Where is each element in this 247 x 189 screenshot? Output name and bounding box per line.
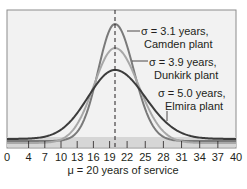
camden-plant-label: Camden plant [144, 38, 213, 50]
x-tick-label: 22 [121, 151, 133, 163]
elmira-sigma-label: σ = 5.0 years, [158, 87, 226, 99]
x-axis-label: μ = 20 years of service [67, 164, 178, 176]
x-tick-label: 19 [103, 151, 115, 163]
x-tick-label: 13 [71, 151, 83, 163]
normal-distribution-chart: 0471013161922252831343740 μ = 20 years o… [0, 0, 247, 189]
x-tick-label: 10 [55, 151, 67, 163]
x-tick-label: 25 [139, 151, 151, 163]
x-axis-tick-labels: 0471013161922252831343740 [4, 151, 242, 163]
elmira-plant-label: Elmira plant [165, 100, 223, 112]
x-tick-label: 7 [42, 151, 48, 163]
x-tick-label: 28 [157, 151, 169, 163]
dunkirk-sigma-label: σ = 3.9 years, [149, 56, 217, 68]
x-tick-label: 16 [87, 151, 99, 163]
dunkirk-plant-label: Dunkirk plant [154, 69, 218, 81]
x-tick-label: 34 [194, 151, 206, 163]
camden-sigma-label: σ = 3.1 years, [141, 25, 209, 37]
x-tick-label: 37 [212, 151, 224, 163]
x-tick-label: 40 [230, 151, 242, 163]
x-tick-label: 0 [4, 151, 10, 163]
x-tick-label: 31 [175, 151, 187, 163]
x-tick-label: 4 [26, 151, 32, 163]
